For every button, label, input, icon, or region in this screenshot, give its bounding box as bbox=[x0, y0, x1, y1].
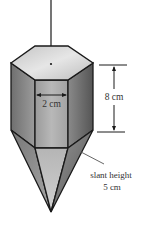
height-label: 8 cm bbox=[105, 92, 124, 102]
height-dimension: 8 cm bbox=[97, 65, 127, 132]
prism-front-face bbox=[35, 80, 68, 148]
slant-height-label: slant height bbox=[90, 170, 132, 180]
string-attach-point bbox=[50, 63, 52, 65]
width-label: 2 cm bbox=[42, 99, 61, 109]
slant-height-annotation: slant height 5 cm bbox=[81, 152, 132, 192]
slant-height-value: 5 cm bbox=[103, 182, 121, 192]
plumb-bob-diagram: 2 cm 8 cm slant height 5 cm bbox=[0, 0, 145, 226]
